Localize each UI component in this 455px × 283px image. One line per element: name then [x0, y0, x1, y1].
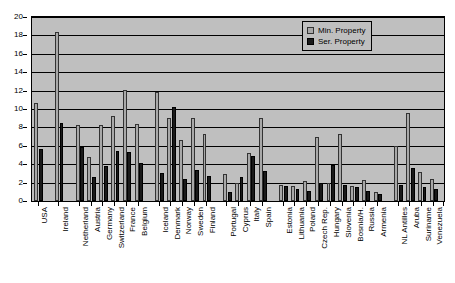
y-tick-mark [23, 109, 27, 110]
x-tick-mark [38, 202, 39, 206]
bar-min-property [374, 192, 378, 201]
bar-ser-property [183, 179, 187, 201]
bar-ser-property [92, 177, 96, 201]
x-tick-mark [238, 202, 239, 206]
bar-min-property [418, 172, 422, 201]
y-axis: 02468101214161820 [0, 16, 27, 202]
legend-item-ser-property: Ser. Property [307, 36, 366, 47]
x-axis-label: Estonia [286, 207, 294, 234]
bar-group [99, 17, 111, 201]
bar-min-property [350, 186, 354, 201]
x-axis-label: Armenia [380, 207, 388, 237]
x-tick-mark [138, 202, 139, 206]
bar-ser-property [251, 156, 255, 201]
x-tick-mark [262, 202, 263, 206]
bar-ser-property [399, 185, 403, 201]
legend-label-ser-property: Ser. Property [318, 38, 365, 46]
bar-group [179, 17, 191, 201]
x-axis-label: Denmark [174, 207, 182, 239]
bar-min-property [315, 137, 319, 201]
bar-ser-property [423, 187, 427, 201]
x-axis-label: Austria [94, 207, 102, 232]
bar-chart: 02468101214161820 USAIrelandNetherlandAu… [0, 0, 455, 283]
x-axis-label: Poland [309, 207, 317, 232]
x-tick-mark [79, 202, 80, 206]
bar-ser-property [207, 176, 211, 201]
x-tick-mark [226, 202, 227, 206]
bar-ser-property [39, 149, 43, 201]
bar-group [34, 17, 46, 201]
x-axis-label: Norway [185, 207, 193, 234]
bar-ser-property [139, 163, 143, 201]
x-tick-mark [306, 202, 307, 206]
bar-min-property [135, 124, 139, 201]
bar-ser-property [411, 168, 415, 201]
bar-min-property [303, 181, 307, 201]
x-tick-mark [318, 202, 319, 206]
x-tick-mark [353, 202, 354, 206]
plot-area [31, 16, 445, 202]
bar-group [235, 17, 247, 201]
bar-ser-property [127, 152, 131, 201]
bar-ser-property [343, 185, 347, 201]
bar-ser-property [263, 171, 267, 201]
x-axis-label: Portugal [230, 207, 238, 237]
x-axis-label: Netherland [82, 207, 90, 246]
bar-ser-property [104, 166, 108, 201]
x-tick-mark [365, 202, 366, 206]
bar-ser-property [160, 173, 164, 201]
x-axis-label: Ireland [62, 207, 70, 231]
bar-group [167, 17, 179, 201]
x-axis-label: France [129, 207, 137, 232]
x-tick-mark [409, 202, 410, 206]
x-axis-label: Bosnia/H. [357, 207, 365, 242]
bar-group [374, 17, 386, 201]
bar-min-property [155, 92, 159, 201]
y-tick-mark [23, 164, 27, 165]
x-axis-label: Switzerland [118, 207, 126, 248]
bar-min-property [167, 118, 171, 201]
y-tick-mark [23, 183, 27, 184]
bar-group [259, 17, 271, 201]
bar-min-property [235, 183, 239, 201]
bar-ser-property [307, 191, 311, 201]
x-axis-labels: USAIrelandNetherlandAustriaGermanySwitze… [31, 207, 445, 283]
bar-ser-property [378, 194, 382, 201]
x-tick-mark [330, 202, 331, 206]
bar-min-property [430, 179, 434, 201]
bar-min-property [247, 153, 251, 201]
y-tick-label: 20 [14, 13, 23, 21]
bar-group [155, 17, 167, 201]
x-tick-mark [377, 202, 378, 206]
x-tick-mark [294, 202, 295, 206]
x-tick-mark [58, 202, 59, 206]
bar-min-property [123, 90, 127, 201]
y-tick-mark [23, 72, 27, 73]
bar-min-property [223, 174, 227, 201]
bar-ser-property [116, 151, 120, 201]
bar-min-property [394, 146, 398, 201]
bar-min-property [362, 180, 366, 201]
bar-min-property [87, 157, 91, 201]
ser-property-swatch-icon [307, 38, 314, 45]
bar-group [203, 17, 215, 201]
bar-min-property [55, 32, 59, 201]
x-tick-mark [342, 202, 343, 206]
y-tick-label: 14 [14, 68, 23, 76]
chart-legend: Min. Property Ser. Property [302, 21, 372, 51]
x-axis-label: Hungary [333, 207, 341, 237]
x-tick-mark [443, 202, 444, 206]
y-tick-mark [23, 127, 27, 128]
bars-layer [32, 17, 444, 201]
x-tick-mark [126, 202, 127, 206]
x-axis-label: Spain [265, 207, 273, 227]
y-tick-mark [23, 201, 27, 202]
x-axis-label: NL Antilles [401, 207, 409, 245]
x-tick-mark [114, 202, 115, 206]
y-tick-mark [23, 35, 27, 36]
y-tick-label: 10 [14, 105, 23, 113]
bar-group [430, 17, 442, 201]
bar-min-property [279, 185, 283, 201]
bar-ser-property [172, 107, 176, 201]
x-axis-label: Germany [106, 207, 114, 240]
